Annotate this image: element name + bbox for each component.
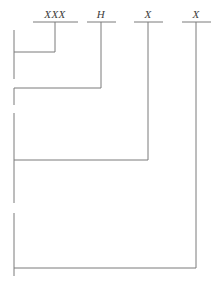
column-drop-lines-group xyxy=(55,22,196,268)
column-label-2: H xyxy=(97,8,105,20)
column-label-3: X xyxy=(144,8,151,20)
diagram-canvas: XXX H X X xyxy=(0,0,212,282)
column-label-4: X xyxy=(192,8,199,20)
diagram-lines-layer xyxy=(0,0,212,282)
horizontal-connectors-group xyxy=(14,52,196,268)
column-label-1: XXX xyxy=(44,8,65,20)
